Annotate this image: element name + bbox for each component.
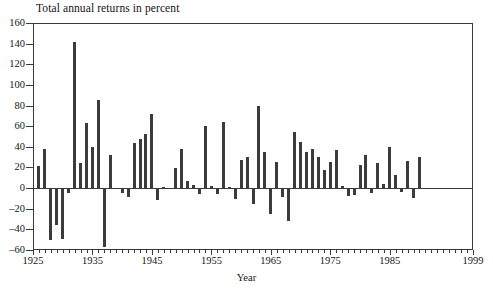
x-tick-minor — [402, 250, 403, 253]
x-tick-label: 1955 — [191, 255, 231, 266]
bar-1943 — [139, 139, 142, 189]
bar-1983 — [376, 163, 379, 188]
y-tick — [26, 44, 33, 45]
y-tick — [26, 188, 33, 189]
x-tick-minor — [241, 250, 242, 253]
bar-1936 — [97, 100, 100, 188]
bar-1950 — [180, 149, 183, 188]
x-tick-minor — [110, 250, 111, 253]
bar-1933 — [79, 163, 82, 188]
x-tick-minor — [134, 250, 135, 253]
x-tick-minor — [366, 250, 367, 253]
x-tick-minor — [265, 250, 266, 253]
x-tick-minor — [45, 250, 46, 253]
bar-1952 — [192, 185, 195, 188]
x-tick-minor — [194, 250, 195, 253]
bar-1962 — [252, 188, 255, 203]
bar-1931 — [67, 188, 70, 193]
y-tick — [26, 250, 33, 251]
bar-1982 — [370, 188, 373, 193]
x-tick-minor — [449, 250, 450, 253]
bar-1972 — [311, 149, 314, 188]
y-tick-label: –20 — [0, 204, 25, 214]
y-tick — [26, 147, 33, 148]
y-tick — [26, 209, 33, 210]
x-tick-minor — [247, 250, 248, 253]
bar-1984 — [382, 184, 385, 188]
bar-1945 — [150, 114, 153, 188]
x-tick-minor — [158, 250, 159, 253]
x-tick-minor — [235, 250, 236, 253]
bar-1932 — [73, 42, 76, 189]
x-tick-minor — [384, 250, 385, 253]
y-tick — [26, 126, 33, 127]
x-tick-minor — [301, 250, 302, 253]
x-tick-minor — [146, 250, 147, 253]
bar-1955 — [210, 186, 213, 188]
x-tick-minor — [81, 250, 82, 253]
x-tick-minor — [140, 250, 141, 253]
bar-1953 — [198, 188, 201, 194]
bar-1974 — [323, 170, 326, 189]
bar-1944 — [144, 134, 147, 188]
x-tick-label: 1925 — [13, 255, 53, 266]
bar-1954 — [204, 126, 207, 188]
x-tick-minor — [75, 250, 76, 253]
bar-1946 — [156, 188, 159, 200]
bar-1926 — [37, 166, 40, 188]
bar-1928 — [49, 188, 52, 240]
y-tick — [26, 229, 33, 230]
x-tick-minor — [425, 250, 426, 253]
x-tick-label: 1985 — [370, 255, 410, 266]
x-tick-minor — [289, 250, 290, 253]
x-tick-minor — [39, 250, 40, 253]
x-tick-minor — [414, 250, 415, 253]
y-tick — [26, 85, 33, 86]
bar-1967 — [281, 188, 284, 197]
bar-1964 — [263, 152, 266, 188]
y-tick-label: 0 — [0, 183, 25, 193]
x-tick-minor — [170, 250, 171, 253]
x-tick-minor — [360, 250, 361, 253]
x-tick-minor — [116, 250, 117, 253]
y-tick-label: 20 — [0, 162, 25, 172]
x-tick-minor — [122, 250, 123, 253]
y-tick — [26, 167, 33, 168]
x-tick-minor — [63, 250, 64, 253]
x-tick-minor — [176, 250, 177, 253]
x-tick-minor — [461, 250, 462, 253]
chart-container: Total annual returns in percent –60–40–2… — [0, 0, 493, 295]
x-tick-minor — [69, 250, 70, 253]
x-tick-minor — [324, 250, 325, 253]
bar-1957 — [222, 122, 225, 188]
y-tick — [26, 106, 33, 107]
x-tick-minor — [336, 250, 337, 253]
bar-1990 — [418, 157, 421, 188]
bar-1975 — [329, 162, 332, 188]
x-tick-minor — [408, 250, 409, 253]
bar-1960 — [240, 160, 243, 188]
x-tick-minor — [51, 250, 52, 253]
bar-1963 — [257, 106, 260, 189]
y-tick-label: –60 — [0, 245, 25, 255]
x-tick-minor — [455, 250, 456, 253]
y-tick-label: 160 — [0, 18, 25, 28]
y-tick-label: –40 — [0, 224, 25, 234]
x-tick-minor — [223, 250, 224, 253]
bar-1971 — [305, 152, 308, 188]
x-tick-minor — [259, 250, 260, 253]
x-tick-minor — [467, 250, 468, 253]
x-tick-minor — [312, 250, 313, 253]
bar-1947 — [162, 187, 165, 188]
bar-1949 — [174, 168, 177, 188]
x-tick-minor — [419, 250, 420, 253]
y-tick — [26, 23, 33, 24]
x-tick-minor — [437, 250, 438, 253]
bar-1958 — [228, 187, 231, 188]
bar-1935 — [91, 147, 94, 188]
x-tick-label: 1965 — [251, 255, 291, 266]
x-tick-minor — [217, 250, 218, 253]
bar-1930 — [61, 188, 64, 239]
y-tick-label: 80 — [0, 101, 25, 111]
y-tick-label: 100 — [0, 80, 25, 90]
